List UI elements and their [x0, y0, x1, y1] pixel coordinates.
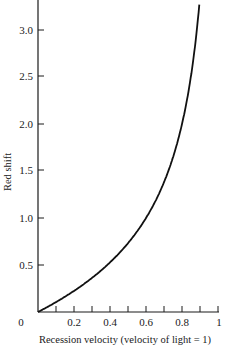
y-ticks	[38, 30, 44, 265]
y-tick-label: 1.5	[19, 164, 33, 176]
x-ticks	[56, 306, 218, 312]
y-tick-label: 1.0	[19, 212, 33, 224]
x-tick-label: 0.6	[139, 316, 153, 328]
y-tick-label: 2.0	[19, 118, 33, 130]
y-tick-label: 0.5	[19, 259, 33, 271]
x-tick-label: 0.2	[67, 316, 81, 328]
y-tick-label: 3.0	[19, 24, 33, 36]
y-axis-title: Red shift	[2, 153, 13, 191]
x-tick-label: 0.8	[175, 316, 189, 328]
origin-label: 0	[18, 316, 24, 328]
y-tick-label: 2.5	[19, 70, 33, 82]
redshift-curve	[38, 5, 199, 312]
x-axis-title: Recession velocity (velocity of light = …	[39, 334, 212, 346]
x-tick-label: 1	[216, 316, 222, 328]
chart-canvas: 0.5 1.0 1.5 2.0 2.5 3.0 0 0.2 0.4 0.6 0.…	[0, 0, 231, 349]
x-tick-label: 0.4	[103, 316, 117, 328]
